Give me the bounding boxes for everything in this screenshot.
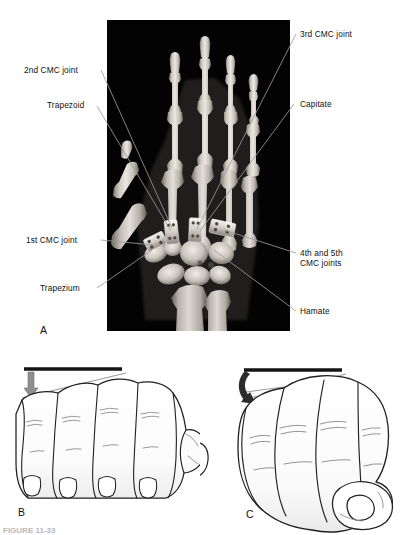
label-3rd-cmc-joint: 3rd CMC joint — [300, 30, 352, 40]
panel-letter-a: A — [40, 324, 47, 336]
label-trapezoid: Trapezoid — [47, 101, 85, 111]
label-capitate: Capitate — [300, 100, 332, 110]
open-hand-drawing — [0, 352, 210, 535]
panel-a-radiograph: 2nd CMC joint Trapezoid 1st CMC joint Tr… — [0, 0, 405, 352]
label-4th-5th-cmc-joints-line2: CMC joints — [300, 259, 342, 269]
label-1st-cmc-joint: 1st CMC joint — [26, 236, 77, 246]
label-2nd-cmc-joint: 2nd CMC joint — [24, 66, 78, 76]
figure-caption-clipped: FIGURE 11-33 — [0, 527, 405, 535]
panel-letter-c: C — [246, 508, 254, 520]
label-trapezium: Trapezium — [40, 284, 80, 294]
label-hamate: Hamate — [300, 307, 330, 317]
anatomy-figure: 2nd CMC joint Trapezoid 1st CMC joint Tr… — [0, 0, 405, 535]
closed-fist-drawing — [200, 352, 405, 535]
figure-caption-text: FIGURE 11-33 — [3, 527, 55, 535]
leader-lines — [0, 0, 405, 352]
panel-letter-b: B — [18, 506, 25, 518]
panel-c-closed-fist: C — [200, 352, 405, 535]
panel-b-open-hand: B — [0, 352, 210, 535]
